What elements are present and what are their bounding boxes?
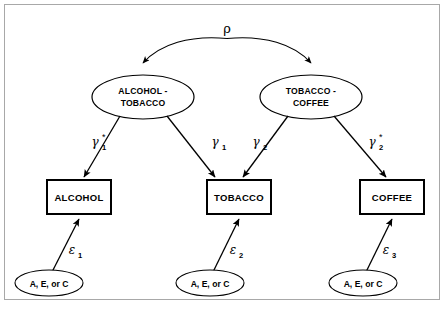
correlation-arc-left-half [143,38,227,63]
tobacco-coffee-ellipse[interactable] [260,75,362,119]
alcohol-tobacco-label-line1: ALCOHOL - [118,86,167,96]
path-gamma-1 [167,116,215,177]
observed-node-coffee[interactable]: COFFEE [360,180,424,214]
observed-node-alcohol[interactable]: ALCOHOL [47,180,111,214]
source-node-3[interactable]: A, E, or C [329,270,397,296]
diagram-canvas: ρ ALCOHOL - TOBACCO TOBACCO - COFFEE γ *… [0,0,448,313]
gamma-2-subscript: 2 [263,143,267,152]
label-gamma-2: γ 2 [252,135,267,152]
correlation-arc-right-half [227,38,311,63]
source-1-label: A, E, or C [30,279,69,289]
latent-node-tobacco-coffee[interactable]: TOBACCO - COFFEE [260,75,362,119]
gamma-1-star-asterisk: * [102,132,106,142]
epsilon-1-subscript: 1 [78,251,82,260]
coffee-box-label: COFFEE [372,192,412,203]
epsilon-2-base: ε [230,243,236,257]
tobacco-box-label: TOBACCO [214,192,264,203]
source-node-2[interactable]: A, E, or C [176,270,244,296]
alcohol-tobacco-ellipse[interactable] [92,75,194,119]
gamma-1-subscript: 1 [222,143,226,152]
path-diagram-figure: ρ ALCOHOL - TOBACCO TOBACCO - COFFEE γ *… [0,0,448,313]
source-node-1[interactable]: A, E, or C [15,270,83,296]
gamma-1-star-subscript: 1 [102,143,106,152]
epsilon-2-subscript: 2 [239,251,243,260]
tobacco-coffee-label-line1: TOBACCO - [286,86,336,96]
gamma-2-star-subscript: 2 [379,143,383,152]
alcohol-box-label: ALCOHOL [54,192,103,203]
epsilon-3-base: ε [383,243,389,257]
label-gamma-2-star: γ * 2 [368,132,383,152]
label-gamma-1: γ 1 [211,135,226,152]
gamma-2-base: γ [252,135,260,149]
correlation-arc-group: ρ [143,21,311,63]
source-3-label: A, E, or C [344,279,383,289]
gamma-2-star-base: γ [368,135,376,149]
rho-label: ρ [223,21,231,36]
gamma-1-star-base: γ [91,135,99,149]
source-2-label: A, E, or C [191,279,230,289]
tobacco-coffee-label-line2: COFFEE [293,98,329,108]
label-epsilon-1: ε 1 [69,243,82,260]
latent-node-alcohol-tobacco[interactable]: ALCOHOL - TOBACCO [92,75,194,119]
gamma-1-base: γ [211,135,219,149]
gamma-2-star-asterisk: * [379,132,383,142]
observed-node-tobacco[interactable]: TOBACCO [207,180,271,214]
label-epsilon-2: ε 2 [230,243,243,260]
label-epsilon-3: ε 3 [383,243,396,260]
alcohol-tobacco-label-line2: TOBACCO [121,98,166,108]
epsilon-3-subscript: 3 [392,251,396,260]
epsilon-1-base: ε [69,243,75,257]
